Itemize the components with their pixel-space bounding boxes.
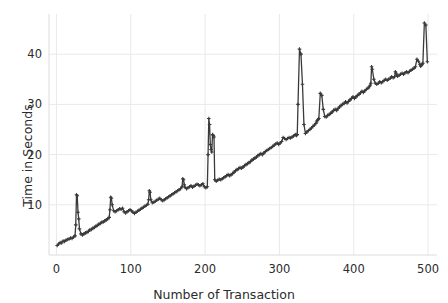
x-tick-label-200: 200 <box>194 262 216 276</box>
data-point-marker <box>207 117 211 121</box>
x-axis-label: Number of Transaction <box>0 287 448 302</box>
x-tick-label-400: 400 <box>343 262 365 276</box>
data-point-marker <box>321 108 325 112</box>
data-point-marker <box>296 103 300 107</box>
data-point-marker <box>302 123 306 127</box>
data-point-marker <box>77 217 81 221</box>
data-point-marker <box>426 60 430 64</box>
x-tick-label-300: 300 <box>268 262 290 276</box>
x-tick-label-500: 500 <box>417 262 439 276</box>
data-point-marker <box>301 82 305 86</box>
data-point-marker <box>78 227 82 231</box>
x-tick-label-0: 0 <box>53 262 60 276</box>
data-point-marker <box>372 77 376 81</box>
chart-figure: 0100200300400500 10203040 Number of Tran… <box>0 0 448 303</box>
y-axis-label: Time in Seconds <box>20 76 35 236</box>
data-point-marker <box>108 208 112 212</box>
data-series-line <box>57 23 427 245</box>
y-tick-label-40: 40 <box>12 47 42 61</box>
data-point-marker <box>298 47 302 51</box>
data-point-marker <box>74 223 78 227</box>
data-series-markers <box>55 21 429 247</box>
x-tick-label-100: 100 <box>120 262 142 276</box>
data-point-marker <box>206 153 210 157</box>
plot-canvas <box>0 0 448 303</box>
